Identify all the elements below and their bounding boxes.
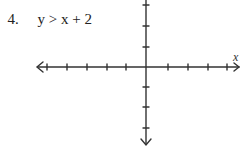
x-axis-label: x [232,50,239,64]
coordinate-plane: x [0,0,242,148]
